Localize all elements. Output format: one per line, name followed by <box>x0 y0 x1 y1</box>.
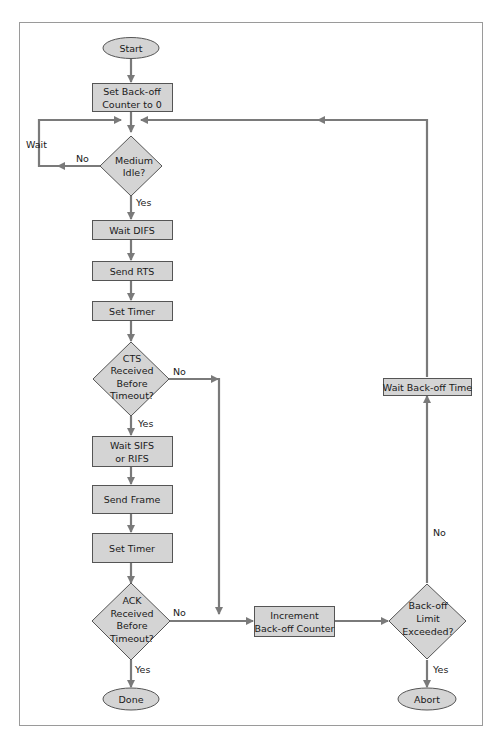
node-cts-received: CTS Received Before Timeout? <box>93 342 169 416</box>
node-send-rts: Send RTS <box>93 262 173 281</box>
node-ack-line4: Timeout? <box>109 633 154 644</box>
edge-label-cts-yes: Yes <box>137 418 153 429</box>
edge-label-ack-yes: Yes <box>134 664 150 675</box>
node-set-timer-2: Set Timer <box>93 534 173 563</box>
node-send-frame: Send Frame <box>93 486 173 514</box>
node-increment-line2: Back-off Counter <box>254 623 334 634</box>
edge-labels: Wait No Yes No Yes No Yes No Yes <box>26 139 448 675</box>
edge-cts-no-down <box>218 379 219 614</box>
edge-label-ack-no: No <box>173 607 186 618</box>
node-medium-idle-line1: Medium <box>115 155 153 166</box>
node-set-counter-line1: Set Back-off <box>103 86 161 97</box>
node-limit-line3: Exceeded? <box>402 626 453 637</box>
node-wait-difs: Wait DIFS <box>93 221 173 240</box>
node-ack-received: ACK Received Before Timeout? <box>92 583 170 660</box>
node-increment-line1: Increment <box>270 610 319 621</box>
node-done: Done <box>103 688 159 710</box>
node-ack-line1: ACK <box>122 595 142 606</box>
node-increment-counter: Increment Back-off Counter <box>254 607 334 637</box>
node-cts-line3: Before <box>116 378 147 389</box>
node-set-timer-2-label: Set Timer <box>109 543 155 554</box>
node-cts-line1: CTS <box>123 353 141 364</box>
node-ack-line2: Received <box>110 608 153 619</box>
node-medium-idle: Medium Idle? <box>100 136 162 196</box>
node-wait-sifs-line2: or RIFS <box>115 453 148 464</box>
node-limit-line2: Limit <box>416 613 440 624</box>
node-wait-difs-label: Wait DIFS <box>109 225 154 236</box>
node-set-timer-1: Set Timer <box>93 302 173 321</box>
node-start-label: Start <box>119 43 142 54</box>
node-set-timer-1-label: Set Timer <box>109 306 155 317</box>
edge-label-idle-yes: Yes <box>135 197 151 208</box>
node-send-rts-label: Send RTS <box>110 266 155 277</box>
edge-label-idle-no: No <box>76 153 89 164</box>
node-cts-line2: Received <box>110 365 153 376</box>
edges <box>39 58 427 687</box>
edge-wait-backoff-to-merge <box>141 120 427 377</box>
edge-label-cts-no: No <box>173 366 186 377</box>
edge-label-limit-yes: Yes <box>432 664 448 675</box>
node-cts-line4: Timeout? <box>109 390 154 401</box>
node-wait-sifs-line1: Wait SIFS <box>110 440 154 451</box>
node-abort: Abort <box>398 688 456 710</box>
node-backoff-limit: Back-off Limit Exceeded? <box>389 584 466 659</box>
node-set-counter-line2: Counter to 0 <box>102 99 162 110</box>
node-abort-label: Abort <box>414 694 440 705</box>
node-start: Start <box>103 38 159 59</box>
node-wait-backoff-label: Wait Back-off Time <box>383 382 472 393</box>
node-set-counter: Set Back-off Counter to 0 <box>93 84 173 112</box>
edge-label-wait: Wait <box>26 139 47 150</box>
node-ack-line3: Before <box>116 620 147 631</box>
node-send-frame-label: Send Frame <box>104 494 161 505</box>
node-done-label: Done <box>119 694 144 705</box>
node-medium-idle-line2: Idle? <box>123 167 145 178</box>
edge-label-limit-no: No <box>433 527 446 538</box>
node-wait-backoff-time: Wait Back-off Time <box>383 379 472 396</box>
flowchart-canvas: Start Set Back-off Counter to 0 Medium I… <box>0 0 502 746</box>
node-limit-line1: Back-off <box>408 600 447 611</box>
node-wait-sifs: Wait SIFS or RIFS <box>93 437 173 467</box>
